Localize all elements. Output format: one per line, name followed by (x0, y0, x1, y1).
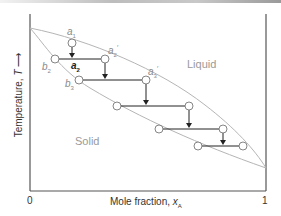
label-a3-prime: a3′ (148, 65, 158, 79)
label-a2-prime: a2′ (108, 44, 118, 58)
point-solidus-4 (113, 102, 121, 110)
arrowhead-down-icon (186, 123, 192, 128)
region-label-liquid: Liquid (187, 59, 216, 70)
point-a1 (68, 39, 76, 47)
liquidus-curve (30, 28, 266, 168)
arrowhead-down-icon (102, 74, 108, 79)
axes (30, 14, 266, 191)
arrowhead-down-icon (143, 100, 149, 105)
arrowhead-down-icon (69, 53, 75, 58)
label-b3: b3 (65, 79, 74, 91)
x-tick-1: 1 (262, 196, 268, 206)
arrow-up-icon: ⟶ (13, 53, 24, 67)
phase-diagram (0, 0, 281, 216)
region-label-solid: Solid (75, 136, 99, 147)
point-solidus-6 (194, 142, 202, 150)
label-a2: a2 (71, 61, 80, 73)
solidus-curve (30, 28, 266, 168)
point-solidus-5 (155, 125, 163, 133)
point-b2 (51, 55, 59, 63)
x-tick-0: 0 (27, 196, 33, 206)
arrowhead-down-icon (220, 140, 226, 145)
label-a1: a1 (67, 27, 76, 39)
point-liquidus-6 (239, 142, 247, 150)
x-axis-title: Mole fraction, xA (110, 197, 182, 209)
point-b3 (75, 76, 83, 84)
label-b2: b2 (42, 62, 51, 74)
point-liquidus-5 (219, 125, 227, 133)
state-points (51, 39, 247, 150)
point-liquidus-4 (185, 102, 193, 110)
y-axis-title: Temperature, T ⟶ (13, 53, 24, 138)
